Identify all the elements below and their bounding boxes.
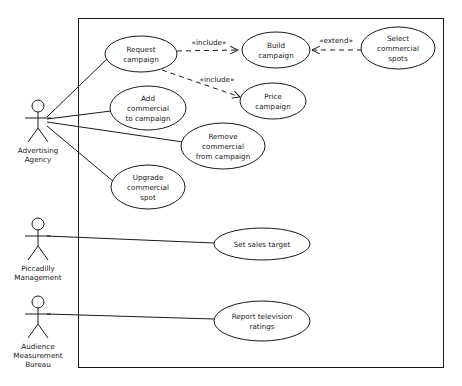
usecase-label: ratings [249,322,274,331]
usecase-add-commercial-to-campaign[interactable]: Add commercial to campaign [110,86,186,130]
usecase-label: commercial [127,104,169,113]
stereotype-include-price: «include» [200,75,235,84]
usecase-label: Set sales target [234,240,291,249]
actor-head-icon [32,218,44,230]
actor-leg-right-icon [38,246,48,260]
usecase-label: Add [141,94,155,103]
diagram-canvas: Advertising Agency Piccadilly Management… [0,0,462,386]
usecase-ellipse [242,32,310,68]
stereotype-extend-select: «extend» [319,36,353,45]
actor-audience-measurement-bureau[interactable]: Audience Measurement Bureau [13,296,63,369]
usecase-price-campaign[interactable]: Price campaign [240,83,306,119]
usecase-select-commercial-spots[interactable]: Select commercial spots [361,27,435,69]
actor-leg-left-icon [28,324,38,338]
actor-piccadilly-management[interactable]: Piccadilly Management [14,218,62,282]
usecase-upgrade-commercial-spot[interactable]: Upgrade commercial spot [111,165,185,209]
actor-leg-left-icon [28,128,38,142]
usecase-remove-commercial-from-campaign[interactable]: Remove commercial from campaign [181,123,265,169]
usecase-label: campaign [258,51,293,60]
usecase-label: commercial [127,183,169,192]
use-case-diagram: Advertising Agency Piccadilly Management… [0,0,462,386]
usecase-ellipse [240,83,306,119]
usecase-label: Upgrade [133,173,164,182]
usecase-label: commercial [202,142,244,151]
usecase-ellipse [105,36,177,72]
actor-head-icon [32,296,44,308]
usecase-ellipse [214,301,310,341]
stereotype-include-build: «include» [192,38,227,47]
actor-label: Piccadilly [21,264,55,273]
actor-label: Measurement [13,351,63,360]
actor-label: Management [14,273,62,282]
usecase-label: from campaign [196,152,250,161]
actor-label: Agency [25,155,52,164]
usecase-label: campaign [123,55,158,64]
usecase-label: Request [126,45,155,54]
actor-leg-right-icon [38,128,48,142]
usecase-label: commercial [377,44,419,53]
usecase-request-campaign[interactable]: Request campaign [105,36,177,72]
usecase-build-campaign[interactable]: Build campaign [242,32,310,68]
usecase-report-television-ratings[interactable]: Report television ratings [214,301,310,341]
usecase-label: Build [267,41,285,50]
actor-label: Audience [21,342,55,351]
usecase-label: Remove [208,132,238,141]
actor-head-icon [32,100,44,112]
actor-leg-left-icon [28,246,38,260]
usecase-label: spots [388,54,408,63]
usecase-label: spot [140,193,156,202]
usecase-set-sales-target[interactable]: Set sales target [214,228,310,260]
usecase-label: Report television [232,312,293,321]
actor-leg-right-icon [38,324,48,338]
actor-label: Bureau [25,360,51,369]
actor-label: Advertising [18,146,59,155]
usecase-label: Select [387,34,409,43]
actor-advertising-agency[interactable]: Advertising Agency [18,100,59,164]
usecase-label: to campaign [126,114,171,123]
usecase-label: campaign [255,102,290,111]
usecase-label: Price [264,92,282,101]
